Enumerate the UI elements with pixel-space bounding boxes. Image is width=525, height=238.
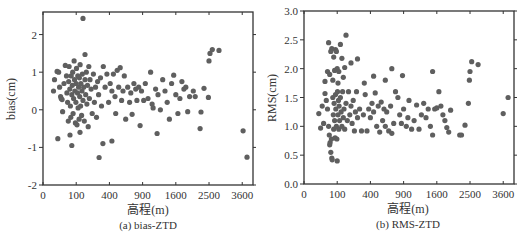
data-point: [326, 40, 331, 45]
data-point: [97, 155, 102, 160]
data-point: [113, 111, 118, 116]
data-point: [83, 92, 88, 97]
x-tick-label: 100: [329, 188, 346, 200]
data-point: [448, 108, 453, 113]
data-point: [342, 65, 347, 70]
data-point: [162, 88, 167, 93]
figure: 0100400900160025003600 -2-1012 bias(cm) …: [0, 0, 525, 238]
data-point: [112, 94, 117, 99]
data-point: [79, 113, 84, 118]
data-point: [183, 85, 188, 90]
data-point: [106, 100, 111, 105]
data-point: [116, 85, 121, 90]
data-point: [476, 62, 481, 67]
data-point: [355, 56, 360, 61]
data-point: [379, 100, 384, 105]
data-point: [82, 52, 87, 57]
x-tick-label: 400: [362, 188, 379, 200]
data-point: [430, 69, 435, 74]
x-tick-label: 0: [40, 189, 46, 201]
y-tick-label: 0: [32, 104, 38, 116]
data-point: [93, 85, 98, 90]
data-point: [332, 101, 337, 106]
data-point: [339, 56, 344, 61]
data-point: [338, 42, 343, 47]
data-point: [335, 89, 340, 94]
data-point: [78, 103, 83, 108]
data-point: [104, 72, 109, 77]
data-point: [171, 73, 176, 78]
data-point: [322, 79, 327, 84]
data-point: [346, 89, 351, 94]
y-tick-label: 0.5: [284, 149, 298, 161]
data-point: [179, 79, 184, 84]
data-point: [357, 106, 362, 111]
data-point: [173, 92, 178, 97]
data-point: [341, 75, 346, 80]
y-tick-label: 1.5: [284, 92, 298, 104]
data-point: [363, 92, 368, 97]
data-point: [210, 47, 215, 52]
data-point: [416, 127, 421, 132]
data-point: [326, 124, 331, 129]
data-point: [201, 86, 206, 91]
y-tick-label: 3.0: [284, 5, 298, 17]
data-point: [354, 89, 359, 94]
data-point: [316, 111, 321, 116]
data-point: [436, 89, 441, 94]
data-point: [414, 102, 419, 107]
data-point: [371, 109, 376, 114]
data-point: [67, 64, 72, 69]
data-point: [61, 81, 66, 86]
data-point: [324, 98, 329, 103]
data-point: [373, 90, 378, 95]
data-point: [96, 92, 101, 97]
x-tick-label: 3600: [492, 188, 515, 200]
data-point: [462, 123, 467, 128]
data-point: [82, 77, 87, 82]
data-point: [86, 64, 91, 69]
y-tick-label: 2.0: [284, 63, 298, 75]
data-point: [395, 95, 400, 100]
data-point: [444, 125, 449, 130]
data-point: [401, 106, 406, 111]
data-point: [185, 109, 190, 114]
data-point: [343, 101, 348, 106]
data-point: [94, 115, 99, 120]
data-point: [177, 96, 182, 101]
data-point: [80, 16, 85, 21]
data-point: [78, 62, 83, 67]
data-point: [331, 55, 336, 60]
data-point: [99, 103, 104, 108]
data-point: [82, 119, 87, 124]
data-point: [158, 107, 163, 112]
data-point: [72, 58, 77, 63]
data-point: [80, 98, 85, 103]
data-point: [400, 73, 405, 78]
data-point: [98, 75, 103, 80]
data-point: [393, 89, 398, 94]
data-point: [118, 65, 123, 70]
data-point: [366, 106, 371, 111]
data-point: [340, 89, 345, 94]
data-point: [198, 126, 203, 131]
data-point: [151, 105, 156, 110]
data-point: [52, 77, 57, 82]
data-point: [169, 81, 174, 86]
data-point: [60, 97, 65, 102]
data-point: [130, 112, 135, 117]
data-point: [506, 95, 511, 100]
x-axis-title: 高程(m): [127, 202, 168, 217]
data-point: [442, 118, 447, 123]
data-point: [362, 81, 367, 86]
data-point: [143, 81, 148, 86]
data-point: [109, 88, 114, 93]
data-point: [155, 131, 160, 136]
data-point: [77, 130, 82, 135]
data-point: [320, 104, 325, 109]
y-tick-label: 0.0: [284, 178, 298, 190]
scatter-points: [51, 16, 250, 160]
data-point: [55, 136, 60, 141]
data-point: [337, 104, 342, 109]
data-point: [347, 112, 352, 117]
